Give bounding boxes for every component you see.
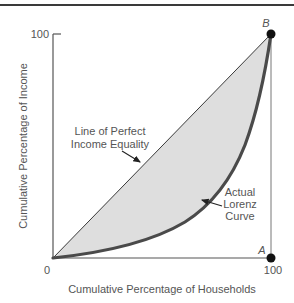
equality-arrow <box>122 151 140 162</box>
lorenz-curve-diagram: 100 0 100 Cumulative Percentage of House… <box>0 0 294 303</box>
point-a <box>267 254 276 263</box>
equality-label-line2: Income Equality <box>71 138 150 150</box>
lorenz-label-line1: Actual <box>225 186 256 198</box>
y-axis-label: Cumulative Percentage of Income <box>17 63 29 229</box>
point-b-label: B <box>262 17 269 29</box>
x-axis-label: Cumulative Percentage of Households <box>68 283 256 295</box>
lorenz-label-line2: Lorenz <box>223 198 257 210</box>
y-tick-label-100: 100 <box>31 28 49 40</box>
point-a-label: A <box>257 244 265 256</box>
lorenz-label-line3: Curve <box>225 210 254 222</box>
point-b <box>267 30 276 39</box>
equality-label-line1: Line of Perfect <box>75 125 146 137</box>
origin-label: 0 <box>44 264 50 276</box>
x-tick-label-100: 100 <box>264 264 282 276</box>
